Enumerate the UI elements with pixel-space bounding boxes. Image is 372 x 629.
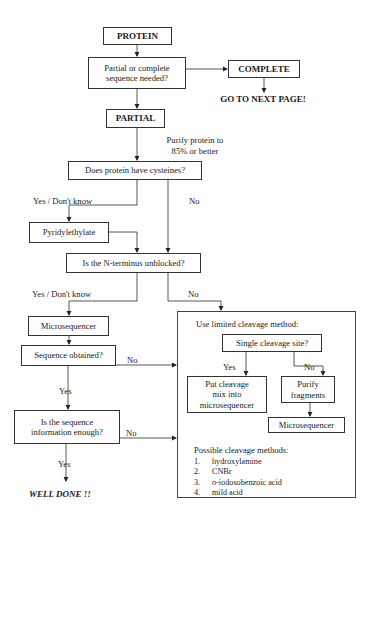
cleavage-method-item: 4. mild acid (194, 488, 282, 498)
method-number: 1. (194, 457, 212, 467)
n-terminus-no-label: No (188, 289, 199, 300)
method-name: CNBr (212, 467, 232, 477)
sequence-enough-no-label: No (126, 428, 137, 439)
purify-fragments-line-2: fragments (291, 390, 325, 401)
cleavage-method-item: 2. CNBr (194, 467, 282, 477)
partial-or-complete-decision: Partial or complete sequence needed? (88, 57, 186, 89)
sequence-obtained-label: Sequence obtained? (34, 350, 102, 361)
method-name: mild acid (212, 488, 243, 498)
cysteines-label: Does protein have cysteines? (85, 165, 185, 176)
purify-fragments-line-1: Purify (297, 379, 318, 390)
put-cleavage-line-2: mix into (213, 389, 242, 400)
pyridylethylate-label: Pyridylethylate (43, 227, 96, 238)
cleavage-method-item: 1. hydroxylamine (194, 457, 282, 467)
pyridylethylate-node: Pyridylethylate (29, 222, 109, 243)
sequence-enough-decision: Is the sequence information enough? (14, 410, 120, 444)
cleavage-microsequencer-label: Microsequencer (279, 420, 334, 431)
single-site-no-label: No (304, 362, 315, 373)
method-name: hydroxylamine (212, 457, 262, 467)
decision-line-1: Partial or complete (104, 63, 169, 74)
sequence-enough-line-2: information enough? (31, 427, 103, 438)
complete-node: COMPLETE (228, 60, 300, 78)
method-number: 3. (194, 478, 212, 488)
put-cleavage-line-1: Put cleavage (205, 379, 249, 390)
purify-protein-note: Purify protein to 85% or better (152, 135, 238, 156)
microsequencer-node: Microsequencer (28, 316, 109, 336)
cleavage-methods-list: 1. hydroxylamine 2. CNBr 3. o-iodosobenz… (194, 457, 282, 498)
sequence-obtained-decision: Sequence obtained? (21, 345, 116, 366)
partial-label: PARTIAL (116, 113, 156, 124)
partial-node: PARTIAL (106, 109, 165, 128)
complete-label: COMPLETE (238, 64, 290, 75)
cysteines-no-label: No (189, 196, 200, 207)
method-number: 4. (194, 488, 212, 498)
cleavage-methods-title: Possible cleavage methods: (194, 445, 289, 456)
sequence-obtained-no-label: No (127, 355, 138, 366)
sequence-obtained-yes-label: Yes (59, 386, 72, 397)
sequence-enough-yes-label: Yes (58, 459, 71, 470)
method-name: -iodosobenzoic acid (216, 478, 282, 487)
protein-node: PROTEIN (103, 27, 172, 45)
cleavage-microsequencer-node: Microsequencer (268, 417, 345, 433)
single-site-yes-label: Yes (223, 362, 236, 373)
method-number: 2. (194, 467, 212, 477)
well-done-text: WELL DONE !! (29, 489, 91, 500)
purify-note-line-2: 85% or better (152, 146, 238, 157)
protein-label: PROTEIN (117, 31, 158, 42)
n-terminus-label: Is the N-terminus unblocked? (83, 258, 185, 269)
go-to-next-page-text: GO TO NEXT PAGE! (205, 94, 321, 105)
microsequencer-label: Microsequencer (41, 321, 96, 332)
sequence-enough-line-1: Is the sequence (41, 417, 94, 428)
single-site-label: Single cleavage site? (236, 338, 308, 349)
cleavage-method-item: 3. o-iodosobenzoic acid (194, 478, 282, 488)
cysteines-decision: Does protein have cysteines? (68, 161, 202, 180)
purify-fragments-node: Purify fragments (281, 376, 335, 403)
put-cleavage-line-3: microsequencer (200, 400, 254, 411)
cleavage-box-title: Use limited cleavage method: (196, 319, 298, 330)
n-terminus-decision: Is the N-terminus unblocked? (66, 253, 201, 273)
put-cleavage-mix-node: Put cleavage mix into microsequencer (187, 376, 267, 413)
single-cleavage-site-decision: Single cleavage site? (222, 334, 322, 352)
n-terminus-yes-label: Yes / Don't know (32, 289, 91, 300)
decision-line-2: sequence needed? (106, 73, 168, 84)
purify-note-line-1: Purify protein to (152, 135, 238, 146)
cysteines-yes-label: Yes / Don't know (33, 196, 92, 207)
